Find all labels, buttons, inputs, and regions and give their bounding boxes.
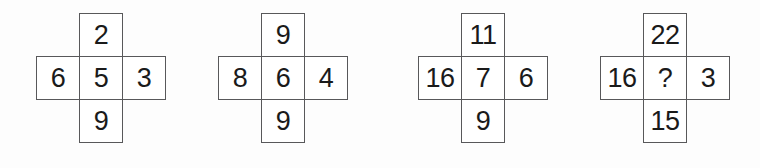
cross-2-top-value: 9	[276, 22, 291, 49]
cross-3-right-value: 6	[519, 65, 534, 92]
cross-4-right-value: 3	[701, 65, 716, 92]
cross-2-bottom-cell: 9	[261, 99, 305, 143]
cross-1-top-cell: 2	[79, 13, 123, 57]
cross-4-right-cell: 3	[686, 56, 730, 100]
cross-1-center-cell: 5	[79, 56, 123, 100]
cross-3-right-cell: 6	[504, 56, 548, 100]
cross-4-top-cell: 22	[643, 13, 687, 57]
cross-4-unknown-value: ?	[658, 65, 673, 92]
cross-figure-1: 2 6 5 3 9	[36, 13, 167, 144]
cross-3-top-cell: 11	[461, 13, 505, 57]
cross-2-center-value: 6	[276, 65, 291, 92]
cross-3-top-value: 11	[469, 22, 496, 49]
cross-3-bottom-value: 9	[476, 108, 491, 135]
cross-1-bottom-value: 9	[94, 108, 109, 135]
cross-2-right-cell: 4	[304, 56, 348, 100]
cross-4-bottom-cell: 15	[643, 99, 687, 143]
cross-1-right-cell: 3	[122, 56, 166, 100]
cross-2-right-value: 4	[319, 65, 334, 92]
cross-3-center-cell: 7	[461, 56, 505, 100]
cross-1-left-value: 6	[51, 65, 66, 92]
cross-figure-4: 22 16 ? 3 15	[600, 13, 731, 144]
cross-4-bottom-value: 15	[650, 108, 679, 135]
cross-4-left-cell: 16	[600, 56, 644, 100]
cross-1-right-value: 3	[137, 65, 152, 92]
cross-3-left-cell: 16	[418, 56, 462, 100]
cross-figure-3: 11 16 7 6 9	[418, 13, 549, 144]
cross-3-bottom-cell: 9	[461, 99, 505, 143]
cross-1-top-value: 2	[94, 22, 109, 49]
cross-2-bottom-value: 9	[276, 108, 291, 135]
cross-3-left-value: 16	[425, 65, 454, 92]
cross-4-left-value: 16	[607, 65, 636, 92]
cross-2-center-cell: 6	[261, 56, 305, 100]
cross-1-center-value: 5	[94, 65, 109, 92]
cross-1-left-cell: 6	[36, 56, 80, 100]
cross-2-top-cell: 9	[261, 13, 305, 57]
cross-figure-2: 9 8 6 4 9	[218, 13, 349, 144]
cross-3-center-value: 7	[476, 65, 491, 92]
cross-2-left-value: 8	[233, 65, 248, 92]
cross-4-top-value: 22	[650, 22, 679, 49]
cross-1-bottom-cell: 9	[79, 99, 123, 143]
cross-2-left-cell: 8	[218, 56, 262, 100]
puzzle-board: 2 6 5 3 9 9 8 6 4 9	[0, 0, 760, 168]
cross-4-center-cell: ?	[643, 56, 687, 100]
